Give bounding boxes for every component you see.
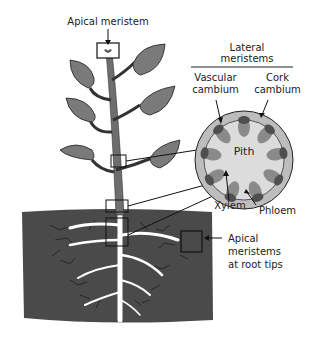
root-tips-label-line2: meristems (228, 246, 281, 258)
leaf (150, 140, 180, 168)
phloem-label: Phloem (255, 205, 300, 217)
apical-meristem-label: Apical meristem (60, 16, 156, 28)
lateral-meristems-label-line2: meristems (212, 53, 282, 65)
cork-cambium-label-line1: Cork (250, 72, 305, 84)
leaf (70, 60, 94, 88)
cork-cambium-label-line2: cambium (250, 84, 305, 96)
pith-label: Pith (224, 146, 264, 158)
leaf (133, 44, 165, 75)
root-tips-label-line3: at root tips (228, 259, 283, 271)
leaf (60, 145, 94, 160)
xylem-label: Xylem (210, 200, 250, 212)
leaf (66, 98, 95, 122)
stem-cross-section (195, 111, 293, 209)
vascular-cambium-label-line1: Vascular (188, 72, 243, 84)
leaf (140, 86, 175, 115)
vascular-cambium-label-line2: cambium (188, 84, 243, 96)
root-tips-label-line1: Apical (228, 233, 258, 245)
